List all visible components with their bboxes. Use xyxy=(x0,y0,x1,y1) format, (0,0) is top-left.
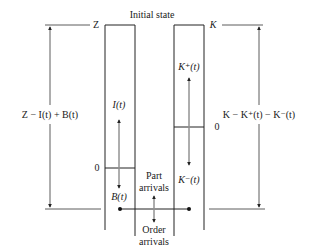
order-arrivals-line2: arrivals xyxy=(139,236,169,247)
left-column: I(t) B(t) 0 xyxy=(95,25,136,236)
kminus-label: K⁻(t) xyxy=(177,174,200,186)
part-arrivals-line1: Part xyxy=(146,170,162,181)
b-label: B(t) xyxy=(111,191,127,203)
kplus-label: K⁺(t) xyxy=(177,61,200,73)
inventory-diagram: Initial state I(t) B(t) 0 K⁺(t) K⁻(t) 0 … xyxy=(0,0,336,247)
title-initial-state: Initial state xyxy=(130,9,175,20)
left-dimension-label: Z − I(t) + B(t) xyxy=(22,109,78,121)
order-arrivals-line1: Order xyxy=(142,224,166,235)
right-column: K⁺(t) K⁻(t) 0 xyxy=(174,25,220,236)
right-dimension-label: K − K⁺(t) − K⁻(t) xyxy=(223,109,295,121)
i-label: I(t) xyxy=(112,99,126,111)
left-connector-dot xyxy=(118,207,122,211)
right-connector-dot xyxy=(187,207,191,211)
part-arrivals-line2: arrivals xyxy=(139,182,169,193)
z-label: Z xyxy=(93,19,99,30)
right-zero-label: 0 xyxy=(215,121,220,132)
k-label: K xyxy=(209,19,218,30)
left-zero-label: 0 xyxy=(95,162,100,173)
